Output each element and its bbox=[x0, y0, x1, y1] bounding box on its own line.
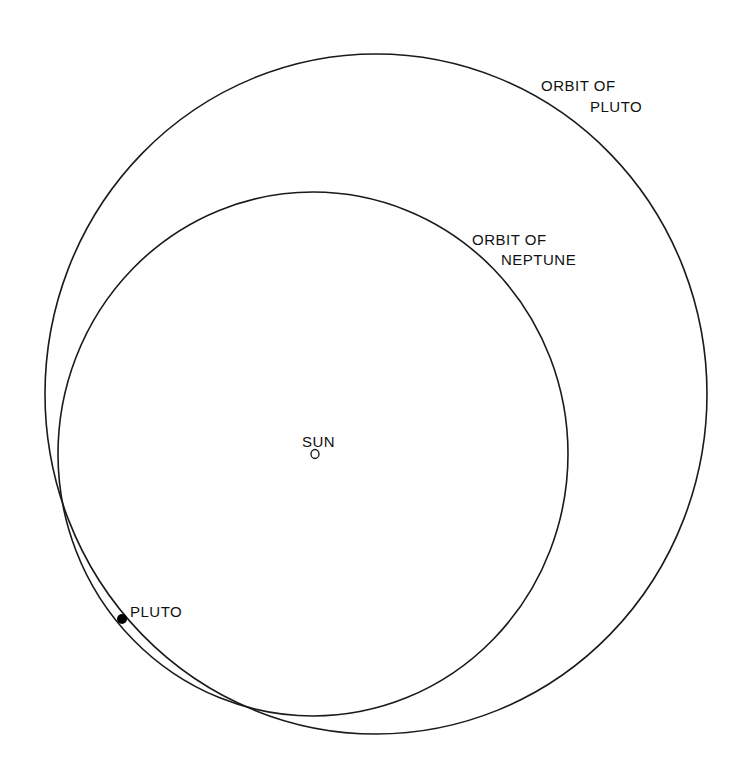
neptune-orbit-label-line1: ORBIT OF bbox=[472, 231, 547, 248]
pluto-orbit bbox=[45, 54, 707, 734]
sun-marker-icon bbox=[311, 450, 319, 459]
neptune-orbit-label-line2: NEPTUNE bbox=[501, 251, 576, 268]
pluto-planet-icon bbox=[117, 614, 127, 624]
sun-label: SUN bbox=[302, 433, 335, 450]
pluto-orbit-label-line1: ORBIT OF bbox=[541, 77, 616, 94]
pluto-orbit-label-line2: PLUTO bbox=[590, 98, 642, 115]
pluto-label: PLUTO bbox=[130, 603, 182, 620]
orbit-diagram: ORBIT OF PLUTO ORBIT OF NEPTUNE SUN PLUT… bbox=[0, 0, 731, 771]
neptune-orbit bbox=[58, 192, 568, 716]
